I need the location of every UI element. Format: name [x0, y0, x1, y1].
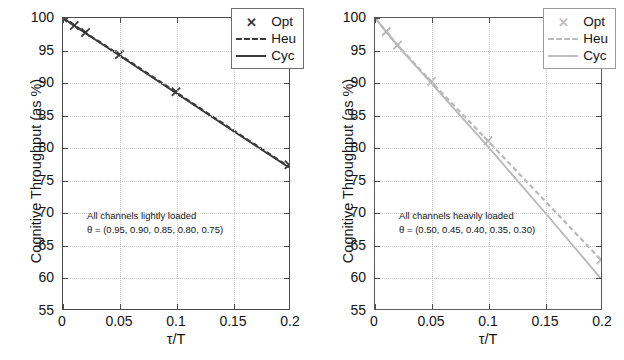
axis-tick-x: [63, 304, 64, 309]
x-marker-icon: ✕: [236, 16, 266, 28]
legend-item-cyc[interactable]: Cyc: [548, 47, 608, 64]
axis-tick-y: [284, 246, 289, 247]
x-tick-label: 0.15: [531, 313, 558, 329]
axis-tick-x: [120, 304, 121, 309]
gridline-horizontal: [375, 246, 601, 247]
axis-tick-y: [375, 213, 380, 214]
y-axis-title-left: Cognitive Throughput (as %): [28, 51, 44, 291]
axis-tick-y: [375, 148, 380, 149]
axis-tick-x: [489, 18, 490, 23]
axis-tick-x: [234, 304, 235, 309]
gridline-horizontal: [375, 148, 601, 149]
axis-tick-y: [596, 148, 601, 149]
axis-tick-y: [63, 181, 68, 182]
gridline-horizontal: [375, 83, 601, 84]
legend-left[interactable]: ✕ Opt Heu Cyc: [231, 8, 304, 69]
gridline-horizontal: [375, 181, 601, 182]
chart-panel-left: 556065707580859095100 00.050.10.150.2 Co…: [0, 0, 312, 360]
axis-tick-x: [375, 18, 376, 23]
x-tick-label: 0.05: [105, 313, 132, 329]
gridline-horizontal: [375, 116, 601, 117]
gridline-horizontal: [63, 278, 289, 279]
axis-tick-x: [120, 18, 121, 23]
annotation-left: All channels lightly loaded θ = (0.95, 0…: [87, 209, 223, 237]
y-axis-title-right: Cognitive Throughput (as %): [340, 51, 356, 291]
axis-tick-y: [375, 83, 380, 84]
legend-item-opt[interactable]: ✕ Opt: [548, 13, 608, 30]
axis-tick-y: [284, 278, 289, 279]
annotation-right-line1: All channels heavily loaded: [399, 209, 535, 223]
axis-tick-y: [375, 51, 380, 52]
axis-tick-y: [63, 213, 68, 214]
annotation-left-line2: θ = (0.95, 0.90, 0.85, 0.80, 0.75): [87, 223, 223, 237]
annotation-right-line2: θ = (0.50, 0.45, 0.40, 0.35, 0.30): [399, 223, 535, 237]
gridline-vertical: [120, 18, 121, 309]
legend-label-cyc: Cyc: [271, 49, 294, 63]
axis-tick-y: [596, 181, 601, 182]
x-tick-label: 0.2: [280, 313, 299, 329]
axis-tick-y: [375, 246, 380, 247]
axis-tick-y: [284, 213, 289, 214]
axis-tick-x: [432, 304, 433, 309]
x-tick-label: 0.1: [166, 313, 185, 329]
legend-label-opt: Opt: [583, 15, 605, 29]
gridline-vertical: [489, 18, 490, 309]
axis-tick-y: [284, 148, 289, 149]
figure-container: 556065707580859095100 00.050.10.150.2 Co…: [0, 0, 624, 360]
x-tick-label: 0.05: [417, 313, 444, 329]
dashed-line-icon: [548, 33, 578, 45]
legend-right[interactable]: ✕ Opt Heu Cyc: [543, 8, 616, 69]
y-tick-label: 100: [31, 9, 54, 25]
axis-tick-y: [63, 278, 68, 279]
axis-tick-x: [489, 304, 490, 309]
axis-tick-y: [284, 116, 289, 117]
legend-label-cyc: Cyc: [583, 49, 606, 63]
x-axis-title-right: τ/T: [374, 331, 602, 347]
chart-panel-right: 556065707580859095100 00.050.10.150.2 Co…: [312, 0, 624, 360]
axis-tick-y: [596, 278, 601, 279]
x-tick-label: 0.1: [478, 313, 497, 329]
axis-tick-y: [375, 116, 380, 117]
axis-tick-y: [63, 83, 68, 84]
legend-item-cyc[interactable]: Cyc: [236, 47, 296, 64]
solid-line-icon: [236, 50, 266, 62]
axis-tick-y: [63, 148, 68, 149]
gridline-horizontal: [63, 116, 289, 117]
gridline-horizontal: [63, 148, 289, 149]
axis-tick-x: [432, 18, 433, 23]
x-axis-title-left: τ/T: [62, 331, 290, 347]
annotation-left-line1: All channels lightly loaded: [87, 209, 223, 223]
solid-line-icon: [548, 50, 578, 62]
gridline-vertical: [432, 18, 433, 309]
legend-item-heu[interactable]: Heu: [236, 30, 296, 47]
axis-tick-x: [177, 304, 178, 309]
legend-label-opt: Opt: [271, 15, 293, 29]
axis-tick-y: [284, 181, 289, 182]
axis-tick-y: [63, 51, 68, 52]
x-marker-icon: ✕: [548, 16, 578, 28]
legend-item-opt[interactable]: ✕ Opt: [236, 13, 296, 30]
legend-item-heu[interactable]: Heu: [548, 30, 608, 47]
axis-tick-y: [596, 213, 601, 214]
axis-tick-x: [177, 18, 178, 23]
x-tick-label: 0: [58, 313, 66, 329]
y-tick-label: 55: [350, 302, 366, 318]
legend-label-heu: Heu: [583, 32, 608, 46]
axis-tick-y: [63, 116, 68, 117]
x-tick-label: 0: [370, 313, 378, 329]
x-tick-label: 0.15: [219, 313, 246, 329]
axis-tick-x: [375, 304, 376, 309]
annotation-right: All channels heavily loaded θ = (0.50, 0…: [399, 209, 535, 237]
axis-tick-y: [63, 246, 68, 247]
axis-tick-x: [546, 304, 547, 309]
y-tick-label: 100: [343, 9, 366, 25]
gridline-vertical: [177, 18, 178, 309]
legend-label-heu: Heu: [271, 32, 296, 46]
x-tick-label: 0.2: [592, 313, 611, 329]
axis-tick-y: [596, 83, 601, 84]
axis-tick-y: [375, 181, 380, 182]
axis-tick-y: [284, 83, 289, 84]
y-tick-label: 55: [38, 302, 54, 318]
gridline-horizontal: [63, 246, 289, 247]
gridline-horizontal: [63, 83, 289, 84]
